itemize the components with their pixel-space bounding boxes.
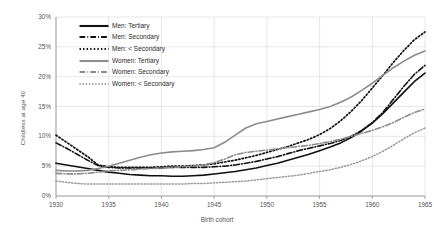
legend-label: Men: < Secondary xyxy=(112,44,165,54)
x-tick-label: 1940 xyxy=(146,201,176,208)
legend-swatch-icon xyxy=(79,79,109,89)
x-tick-label: 1950 xyxy=(252,201,282,208)
series-line-women-secondary xyxy=(56,109,425,174)
legend-item[interactable]: Men: Tertiary xyxy=(79,20,175,32)
y-tick-label: 30% xyxy=(25,13,51,20)
x-tick-label: 1960 xyxy=(357,201,387,208)
legend-label: Men: Secondary xyxy=(112,32,159,42)
legend-swatch-icon xyxy=(79,21,109,31)
legend-swatch-icon xyxy=(79,44,109,54)
x-tick-label: 1930 xyxy=(41,201,71,208)
y-tick-label: 5% xyxy=(25,162,51,169)
x-tick-label: 1955 xyxy=(305,201,335,208)
x-tick-label: 1935 xyxy=(94,201,124,208)
x-tick-label: 1965 xyxy=(410,201,434,208)
childlessness-line-chart: Childless at age 40 0%5%10%15%20%25%30% … xyxy=(0,0,434,235)
legend-label: Women: Tertiary xyxy=(112,56,159,66)
legend-item[interactable]: Women: Tertiary xyxy=(79,55,175,67)
y-tick-label: 20% xyxy=(25,73,51,80)
legend-swatch-icon xyxy=(79,67,109,77)
x-axis-title: Birth cohort xyxy=(0,216,434,223)
plot-canvas xyxy=(0,0,434,235)
x-tick-label: 1945 xyxy=(199,201,229,208)
y-tick-label: 0% xyxy=(25,192,51,199)
legend-item[interactable]: Men: Secondary xyxy=(79,32,175,44)
legend-swatch-icon xyxy=(79,56,109,66)
legend-swatch-icon xyxy=(79,32,109,42)
legend-label: Women: Secondary xyxy=(112,67,169,77)
legend-item[interactable]: Women: < Secondary xyxy=(79,78,175,90)
y-tick-label: 15% xyxy=(25,103,51,110)
y-tick-label: 25% xyxy=(25,43,51,50)
chart-legend: Men: TertiaryMen: SecondaryMen: < Second… xyxy=(79,20,175,90)
legend-item[interactable]: Men: < Secondary xyxy=(79,43,175,55)
legend-label: Women: < Secondary xyxy=(112,79,175,89)
legend-item[interactable]: Women: Secondary xyxy=(79,66,175,78)
legend-label: Men: Tertiary xyxy=(112,21,149,31)
y-tick-label: 10% xyxy=(25,132,51,139)
